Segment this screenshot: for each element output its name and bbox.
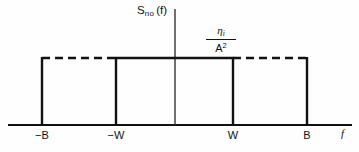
tick-label-minus-b: −B (35, 130, 49, 141)
amplitude-denominator: A2 (204, 41, 238, 55)
amplitude-numerator: ηi (204, 24, 238, 38)
y-axis-caption-argument: (f) (156, 4, 167, 16)
amplitude-denominator-symbol: A (215, 42, 222, 54)
tick-label-plus-w: W (228, 130, 239, 141)
amplitude-level-label: ηi A2 (204, 24, 238, 56)
noise-spectral-density-figure: Sno(f) ηi A2 −B −W W B f (0, 0, 359, 152)
fraction-bar (206, 39, 236, 40)
amplitude-numerator-subscript: i (223, 29, 225, 38)
tick-label-minus-w: −W (107, 130, 124, 141)
y-axis-caption-subscript: no (145, 9, 155, 18)
tick-label-plus-b: B (303, 130, 311, 141)
x-axis-caption: f (341, 128, 344, 139)
y-axis-caption-base: S (137, 4, 145, 16)
y-axis-caption: Sno(f) (137, 5, 167, 18)
amplitude-denominator-exponent: 2 (223, 41, 227, 50)
